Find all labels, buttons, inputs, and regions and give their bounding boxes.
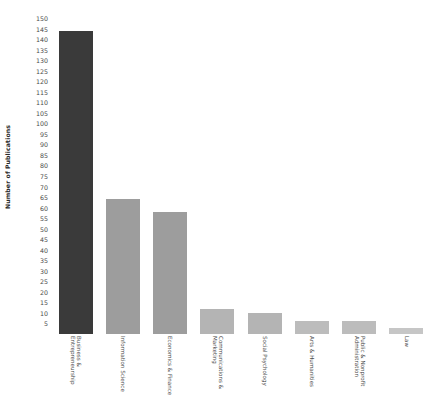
y-axis-tick: 25: [40, 278, 48, 285]
y-axis-tick: 135: [36, 46, 48, 53]
y-axis-tick: 10: [40, 309, 48, 316]
y-axis-tick: 20: [40, 288, 48, 295]
x-axis-tick-line: Public & Nonprofit: [360, 336, 366, 387]
x-axis-tick: Public & NonprofitAdministration: [353, 336, 366, 387]
x-axis-tick: Arts & Humanities: [309, 336, 315, 387]
x-axis-tick-line: Business &: [76, 336, 82, 367]
y-axis-tick: 35: [40, 257, 48, 264]
bar[interactable]: [342, 321, 376, 334]
bar[interactable]: [200, 309, 234, 334]
y-axis-tick: 105: [36, 109, 48, 116]
x-axis-tick-line: Economics & Finance: [167, 336, 173, 395]
x-axis-tick-line: Social Psychology: [262, 336, 268, 386]
x-axis-tick: Social Psychology: [261, 336, 267, 386]
y-axis-tick: 150: [36, 15, 48, 22]
y-axis-tick: 100: [36, 120, 48, 127]
y-axis-tick-labels: 1501451401351301251201151101051009590858…: [22, 0, 48, 420]
x-axis-tick-line: Communications &: [218, 336, 224, 389]
x-axis-tick: Law: [403, 336, 409, 347]
y-axis-tick: 145: [36, 25, 48, 32]
y-axis-tick: 40: [40, 246, 48, 253]
y-axis-tick: 130: [36, 57, 48, 64]
x-axis-tick: Information Science: [120, 336, 126, 392]
y-axis-tick: 15: [40, 299, 48, 306]
y-axis-tick: 50: [40, 225, 48, 232]
y-axis-tick: 85: [40, 151, 48, 158]
y-axis-tick: 95: [40, 130, 48, 137]
x-axis-tick: Communications &Marketing: [211, 336, 224, 389]
x-axis-tick-line: Marketing: [211, 336, 217, 389]
y-axis-tick: 110: [36, 99, 48, 106]
y-axis-tick: 125: [36, 67, 48, 74]
bar[interactable]: [106, 199, 140, 334]
y-axis-tick: 65: [40, 194, 48, 201]
y-axis-tick: 5: [44, 320, 48, 327]
y-axis-tick: 115: [36, 88, 48, 95]
y-axis-tick: 45: [40, 236, 48, 243]
bar[interactable]: [59, 31, 93, 334]
y-axis-tick: 75: [40, 173, 48, 180]
y-axis-tick: 55: [40, 215, 48, 222]
y-axis-tick: 60: [40, 204, 48, 211]
bar[interactable]: [248, 313, 282, 334]
x-axis-tick-line: Arts & Humanities: [309, 336, 315, 387]
x-axis-tick: Economics & Finance: [167, 336, 173, 395]
x-axis-tick-line: Entrepreneurship: [69, 336, 75, 384]
plot-area: [52, 18, 430, 334]
y-axis-tick: 120: [36, 78, 48, 85]
x-axis-tick-line: Law: [404, 336, 410, 347]
bar[interactable]: [153, 212, 187, 334]
y-axis-tick: 90: [40, 141, 48, 148]
x-axis-tick-line: Administration: [353, 336, 359, 387]
y-axis-tick: 30: [40, 267, 48, 274]
y-axis-tick: 70: [40, 183, 48, 190]
x-axis-tick: Business &Entrepreneurship: [69, 336, 82, 384]
publications-bar-chart: Number of Publications 15014514013513012…: [0, 0, 436, 420]
bar[interactable]: [389, 328, 423, 334]
x-axis-tick-line: Information Science: [120, 336, 126, 392]
y-axis-title: Number of Publications: [0, 0, 14, 334]
y-axis-tick: 140: [36, 36, 48, 43]
x-axis-tick-labels: Business &EntrepreneurshipInformation Sc…: [52, 336, 430, 420]
bar[interactable]: [295, 321, 329, 334]
y-axis-tick: 80: [40, 162, 48, 169]
